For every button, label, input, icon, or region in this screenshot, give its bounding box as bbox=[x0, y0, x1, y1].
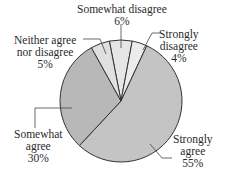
label-text: Neither agree bbox=[14, 34, 76, 46]
label-text: Strongly bbox=[173, 133, 213, 145]
label-text: nor disagree bbox=[14, 46, 76, 58]
label-pct: 5% bbox=[14, 58, 76, 70]
label-strongly-disagree: Strongly disagree 4% bbox=[159, 28, 199, 64]
label-text: Somewhat bbox=[14, 128, 63, 140]
label-text: agree bbox=[14, 140, 63, 152]
label-strongly-agree: Strongly agree 55% bbox=[173, 133, 213, 169]
label-text: Strongly bbox=[159, 28, 199, 40]
label-pct: 55% bbox=[173, 157, 213, 169]
label-pct: 6% bbox=[77, 15, 167, 27]
label-pct: 30% bbox=[14, 152, 63, 164]
label-pct: 4% bbox=[159, 52, 199, 64]
label-text: Somewhat disagree bbox=[77, 3, 167, 15]
label-somewhat-disagree: Somewhat disagree 6% bbox=[77, 3, 167, 27]
label-text: disagree bbox=[159, 40, 199, 52]
label-somewhat-agree: Somewhat agree 30% bbox=[14, 128, 63, 164]
label-text: agree bbox=[173, 145, 213, 157]
label-neither: Neither agree nor disagree 5% bbox=[14, 34, 76, 70]
